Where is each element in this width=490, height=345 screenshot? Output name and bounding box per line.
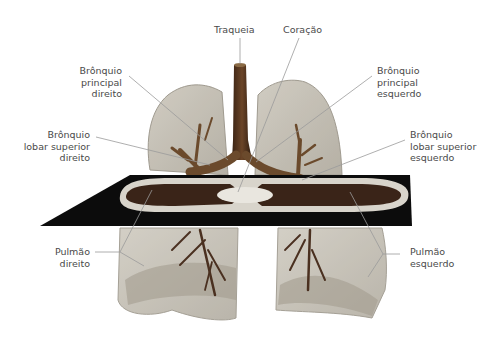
label-heart: Coração (283, 24, 322, 36)
label-right-main-bronchus: Brônquio principal direito (62, 65, 122, 100)
label-left-main-bronchus: Brônquio principal esquerdo (377, 65, 421, 100)
ct-slice-plane (40, 175, 412, 226)
label-left-upper-lobe-bronchus: Brônquio lobar superior esquerdo (410, 129, 476, 164)
label-left-lung: Pulmão esquerdo (410, 246, 454, 269)
lung-anatomy-figure: Traqueia Coração Brônquio principal dire… (0, 0, 490, 345)
lung-rendering (0, 0, 490, 345)
trachea (232, 63, 252, 160)
label-right-lung: Pulmão direito (40, 246, 90, 269)
label-trachea: Traqueia (214, 24, 255, 36)
label-right-upper-lobe-bronchus: Brônquio lobar superior direito (20, 129, 90, 164)
